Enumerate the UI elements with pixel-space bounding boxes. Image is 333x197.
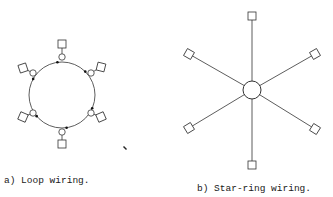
station-box-upper-right — [96, 62, 106, 72]
junction-node — [59, 54, 65, 60]
loop-wiring-diagram — [18, 40, 107, 148]
station-box-lower-left — [184, 123, 195, 134]
station-box-lower-right — [309, 123, 320, 134]
station-box-top — [248, 12, 256, 20]
junction-node — [30, 110, 36, 116]
spoke-line — [252, 90, 315, 129]
spoke-line — [189, 54, 252, 90]
caption-loop-wiring: a) Loop wiring. — [4, 175, 90, 186]
station-box-bottom — [58, 140, 66, 148]
hub-ring — [243, 81, 261, 99]
station-box-upper-left — [18, 63, 28, 73]
station-box-upper-right — [310, 49, 321, 60]
junction-node — [88, 110, 94, 116]
terminal-dot — [65, 126, 68, 129]
terminal-dot — [35, 115, 38, 118]
station-box-upper-left — [184, 49, 195, 60]
station-box-lower-right — [96, 112, 107, 123]
junction-node — [30, 70, 36, 76]
stray-mark — [124, 147, 127, 150]
wiring-diagram — [0, 0, 333, 197]
spoke-line — [252, 54, 315, 90]
junction-node — [88, 70, 94, 76]
station-box-lower-left — [18, 112, 29, 123]
terminal-dot — [84, 70, 87, 73]
caption-star-ring-wiring: b) Star-ring wiring. — [197, 183, 311, 194]
terminal-dot — [32, 78, 35, 81]
terminal-dot — [56, 61, 59, 64]
spoke-line — [189, 90, 252, 128]
terminal-dot — [91, 107, 94, 110]
station-box-bottom — [248, 161, 256, 169]
junction-node — [59, 129, 65, 135]
station-box-top — [58, 40, 66, 48]
ink-speck — [124, 147, 127, 150]
star-ring-wiring-diagram — [184, 12, 321, 169]
